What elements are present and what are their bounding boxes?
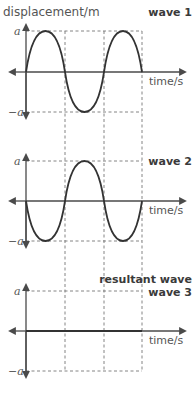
x-axis-label: time/s — [149, 334, 184, 347]
superposition-diagram: displacement/m wave 1 a −a time/s wave 2… — [0, 0, 195, 404]
panel-title: resultant wave — [99, 273, 192, 286]
amplitude-label-neg-a: −a — [8, 106, 24, 119]
amplitude-label-a: a — [14, 285, 21, 298]
y-axis-label: displacement/m — [3, 5, 100, 19]
panel-wave-3: resultant wave wave 3 a −a time/s — [8, 273, 192, 378]
amplitude-label-a: a — [14, 155, 21, 168]
x-axis-label: time/s — [149, 75, 184, 88]
amplitude-label-neg-a: −a — [8, 235, 24, 248]
panel-wave-1: displacement/m wave 1 a −a time/s — [3, 5, 192, 119]
panel-wave-2: wave 2 a −a time/s — [8, 155, 192, 248]
amplitude-label-neg-a: −a — [8, 365, 24, 378]
panel-subtitle: wave 3 — [148, 286, 192, 299]
panel-title: wave 1 — [148, 6, 192, 19]
amplitude-label-a: a — [14, 25, 21, 38]
panel-title: wave 2 — [148, 155, 192, 168]
x-axis-label: time/s — [149, 204, 184, 217]
